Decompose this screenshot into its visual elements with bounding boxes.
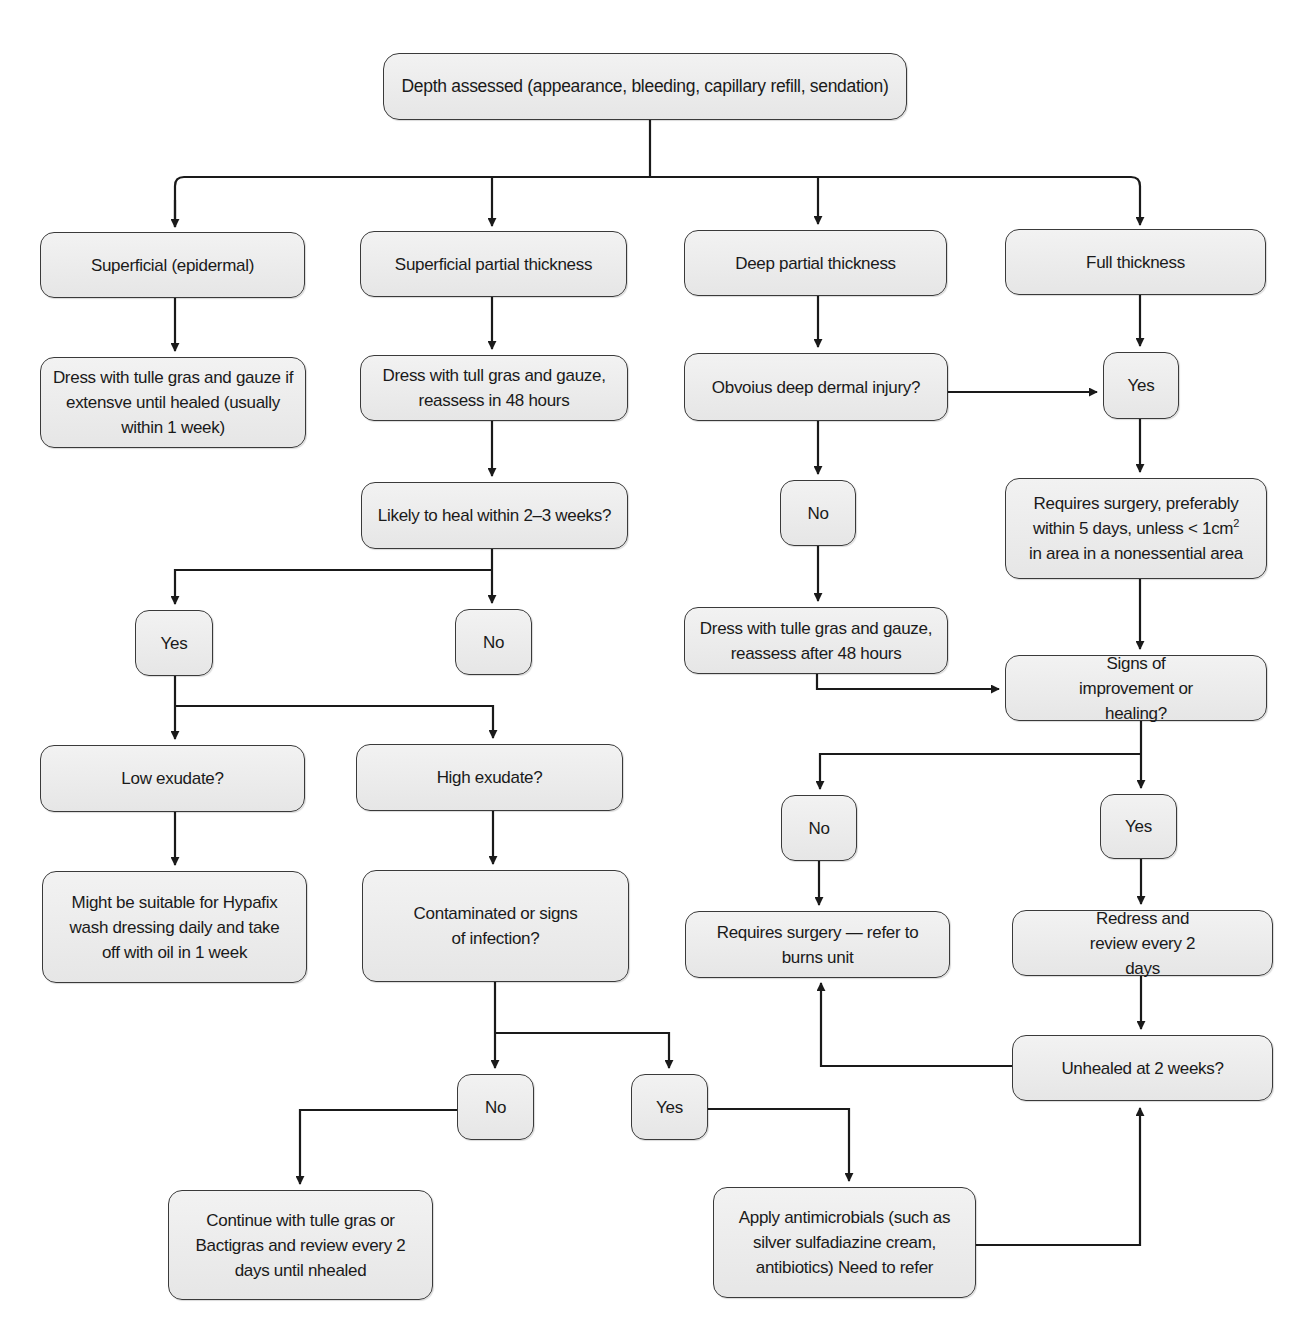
node-low-exudate: Low exudate? — [40, 745, 305, 812]
node-superficial-epidermal: Superficial (epidermal) — [40, 232, 305, 298]
node-label: Yes — [656, 1095, 683, 1120]
node-unhealed-2-weeks: Unhealed at 2 weeks? — [1012, 1035, 1273, 1101]
node-hypafix: Might be suitable for Hypafix wash dress… — [42, 871, 307, 983]
node-label: Apply antimicrobials (such as silver sul… — [730, 1205, 959, 1280]
node-refer-burns-unit: Requires surgery — refer to burns unit — [685, 911, 950, 978]
node-label: Obvoius deep dermal injury? — [712, 375, 920, 400]
node-label-line: Requires surgery, preferably — [1029, 491, 1243, 516]
node-signs-no: No — [781, 795, 857, 861]
node-signs-improvement: Signs of improvement or healing? — [1005, 655, 1267, 721]
node-superficial-partial-thickness: Superficial partial thickness — [360, 231, 627, 297]
node-label: Contaminated or signs of infection? — [413, 901, 578, 951]
node-full-thickness: Full thickness — [1005, 229, 1266, 295]
node-likely-no: No — [455, 609, 532, 675]
node-label: High exudate? — [437, 765, 543, 790]
node-label: Superficial (epidermal) — [91, 253, 254, 278]
node-contaminated-yes: Yes — [631, 1074, 708, 1140]
node-label: Signs of improvement or healing? — [1066, 651, 1206, 726]
node-depth-assessed: Depth assessed (appearance, bleeding, ca… — [383, 53, 907, 120]
node-label: Deep partial thickness — [735, 251, 896, 276]
superscript: 2 — [1233, 517, 1239, 529]
node-label: Dress with tulle gras and gauze if exten… — [49, 365, 297, 440]
node-continue-tulle: Continue with tulle gras or Bactigras an… — [168, 1190, 433, 1300]
node-label: Yes — [1128, 373, 1155, 398]
node-label: Full thickness — [1086, 250, 1185, 275]
node-requires-surgery: Requires surgery, preferably within 5 da… — [1005, 478, 1267, 579]
node-signs-yes: Yes — [1100, 794, 1177, 859]
node-label: Requires surgery, preferably within 5 da… — [1029, 491, 1243, 566]
node-obvious-no: No — [780, 480, 856, 546]
node-dp-dress: Dress with tulle gras and gauze, reasses… — [684, 607, 948, 674]
node-label: Dress with tull gras and gauze, reassess… — [373, 363, 615, 413]
node-label: Depth assessed (appearance, bleeding, ca… — [401, 74, 888, 99]
node-label: Might be suitable for Hypafix wash dress… — [63, 890, 286, 965]
flowchart-canvas: Depth assessed (appearance, bleeding, ca… — [0, 0, 1307, 1330]
node-deep-partial-thickness: Deep partial thickness — [684, 230, 947, 296]
node-label-text: within 5 days, unless < 1cm — [1033, 519, 1233, 538]
node-label: Dress with tulle gras and gauze, reasses… — [693, 616, 939, 666]
node-apply-antimicrobials: Apply antimicrobials (such as silver sul… — [713, 1187, 976, 1298]
node-label: Redress and review every 2 days — [1073, 906, 1212, 981]
node-label: No — [807, 501, 828, 526]
node-label: Yes — [161, 631, 188, 656]
node-contaminated: Contaminated or signs of infection? — [362, 870, 629, 982]
node-label-line: in area in a nonessential area — [1029, 541, 1243, 566]
node-label: Superficial partial thickness — [395, 252, 592, 277]
node-obvious-deep-dermal: Obvoius deep dermal injury? — [684, 353, 948, 421]
node-likely-to-heal: Likely to heal within 2–3 weeks? — [361, 482, 628, 549]
node-obvious-yes: Yes — [1103, 352, 1179, 419]
node-superficial-dress: Dress with tulle gras and gauze if exten… — [40, 357, 306, 448]
node-label: Yes — [1125, 814, 1152, 839]
node-high-exudate: High exudate? — [356, 744, 623, 811]
node-spt-dress: Dress with tull gras and gauze, reassess… — [360, 355, 628, 421]
node-label: Continue with tulle gras or Bactigras an… — [193, 1208, 408, 1283]
node-label: No — [808, 816, 829, 841]
node-label: Low exudate? — [121, 766, 223, 791]
node-label: No — [483, 630, 504, 655]
node-label: No — [485, 1095, 506, 1120]
node-redress-review: Redress and review every 2 days — [1012, 910, 1273, 976]
node-label: Likely to heal within 2–3 weeks? — [378, 503, 611, 528]
node-label: Unhealed at 2 weeks? — [1061, 1056, 1223, 1081]
node-label: Requires surgery — refer to burns unit — [716, 920, 919, 970]
node-contaminated-no: No — [457, 1074, 534, 1140]
node-label-line: within 5 days, unless < 1cm2 — [1029, 516, 1243, 541]
node-likely-yes: Yes — [135, 610, 213, 676]
